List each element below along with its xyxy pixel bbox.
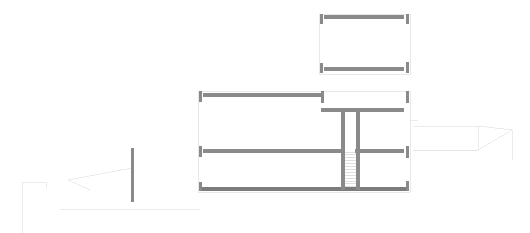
left-construction-line-group [22, 168, 200, 233]
left-leader-upper [68, 168, 132, 180]
main-left-jamb-bottom [199, 182, 202, 191]
main-left-jamb-top [199, 91, 202, 102]
upper-block-thin-outline [319, 14, 410, 74]
upper-left-jamb-bottom [320, 63, 323, 73]
floor-plan-canvas [0, 0, 530, 233]
right-construction-line-group [410, 120, 512, 160]
stair-wall-right [356, 110, 360, 190]
isolated-vertical-wall [131, 148, 134, 202]
main-mid-wall-left [203, 149, 341, 153]
main-block-thin-outline [198, 91, 410, 192]
floor-plan-drawing [0, 0, 530, 233]
main-bottom-wall [199, 187, 409, 191]
main-right-jamb-bottom [406, 181, 409, 191]
upper-left-jamb-top [320, 14, 323, 24]
upper-block-walls [320, 14, 409, 73]
upper-bottom-wall [324, 67, 404, 71]
main-left-jamb-mid [199, 146, 202, 157]
right-frame-diag [478, 130, 512, 150]
main-block-walls [199, 91, 410, 191]
stair-wall-left [341, 110, 345, 190]
isolated-wall-group [131, 148, 134, 202]
main-top-right-wall [321, 108, 404, 112]
upper-right-jamb-top [406, 14, 409, 24]
upper-right-jamb-bottom [406, 62, 409, 73]
main-right-jamb-mid [406, 146, 409, 158]
left-leader-lower [68, 180, 90, 190]
main-mid-wall-right [355, 149, 404, 153]
right-frame-slope [478, 126, 512, 130]
stair-tread-group [344, 152, 357, 187]
upper-top-wall [324, 15, 404, 19]
partition-wall-upper-right [321, 91, 324, 103]
main-right-jamb-top [406, 91, 409, 103]
main-top-left-wall [203, 93, 321, 97]
